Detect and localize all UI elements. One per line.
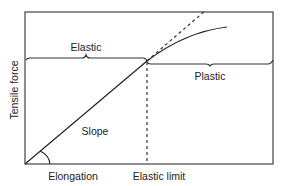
stress-strain-diagram: Elastic Plastic Slope Elongation Elastic… bbox=[0, 0, 287, 186]
elastic-brace bbox=[26, 55, 147, 61]
plot-frame bbox=[25, 12, 273, 164]
x-axis-label: Elongation bbox=[48, 170, 98, 182]
plastic-brace bbox=[147, 60, 273, 66]
elastic-line bbox=[25, 61, 147, 164]
slope-label: Slope bbox=[82, 125, 109, 137]
y-axis-label: Tensile force bbox=[8, 60, 20, 119]
plastic-curve bbox=[147, 27, 227, 61]
slope-angle-arc bbox=[40, 151, 50, 164]
elastic-label: Elastic bbox=[71, 41, 102, 53]
linear-extension-dashed bbox=[147, 10, 206, 61]
elastic-limit-label: Elastic limit bbox=[133, 170, 186, 182]
plastic-label: Plastic bbox=[195, 70, 226, 82]
